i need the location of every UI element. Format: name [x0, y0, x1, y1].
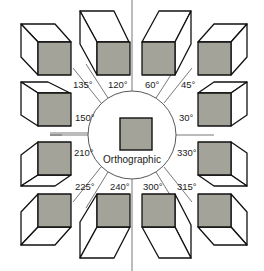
angle-label-45: 45° [181, 79, 196, 90]
angle-label-330: 330° [177, 147, 197, 158]
orthographic-face [120, 118, 152, 150]
orthographic-label: Orthographic [103, 154, 161, 165]
angle-label-150: 150° [75, 112, 95, 123]
cube-315 [198, 194, 247, 245]
angle-label-210: 210° [74, 147, 94, 158]
diagram-canvas: 135° 120° 60° 45° 150° 30° 210° 330° 225… [0, 0, 264, 271]
cube-210 [21, 142, 71, 186]
angle-label-120: 120° [108, 79, 128, 90]
cube-45 [198, 24, 247, 75]
cube-150 [21, 82, 71, 126]
cube-225 [21, 194, 71, 245]
angle-label-135: 135° [73, 79, 93, 90]
angle-label-60: 60° [145, 79, 160, 90]
projection-diagram: 135° 120° 60° 45° 150° 30° 210° 330° 225… [0, 0, 264, 271]
angle-label-225: 225° [75, 181, 95, 192]
angle-label-240: 240° [110, 181, 130, 192]
cube-330 [198, 142, 247, 186]
cube-135 [21, 24, 71, 75]
cube-240 [80, 194, 130, 258]
angle-label-315: 315° [177, 181, 197, 192]
cube-120 [80, 11, 130, 75]
cube-30 [198, 82, 247, 126]
cube-60 [142, 11, 191, 75]
cube-300 [142, 194, 191, 258]
angle-label-300: 300° [143, 181, 163, 192]
angle-label-30: 30° [179, 112, 194, 123]
